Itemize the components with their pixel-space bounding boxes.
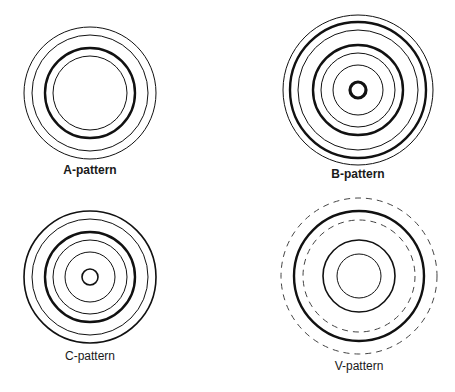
pattern-c-label: C-pattern — [65, 349, 115, 363]
pattern-v-label: V-pattern — [335, 359, 384, 373]
ring-pattern-diagram: A-pattern B-pattern C-pattern V-pattern — [0, 0, 455, 392]
background — [0, 0, 455, 392]
pattern-a-label: A-pattern — [63, 163, 116, 177]
pattern-b-label: B-pattern — [331, 167, 384, 181]
